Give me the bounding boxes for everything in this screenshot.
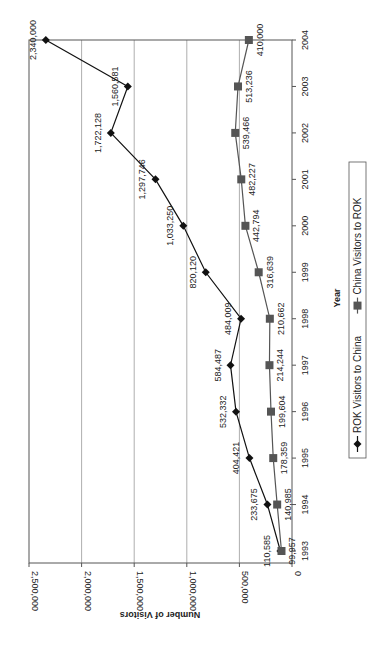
data-label: 539,466 (241, 117, 251, 150)
year-tick-label: 2002 (300, 123, 310, 143)
value-tick-label: 2,500,000 (30, 571, 40, 611)
data-label: 482,227 (247, 163, 257, 196)
legend-label: China Visitors to ROK (352, 197, 363, 294)
year-tick-label: 1999 (300, 262, 310, 282)
diamond-marker (227, 361, 235, 369)
year-axis-ticks: 1993199419951996199719981999200020012002… (292, 30, 310, 561)
data-label: 1,560,581 (110, 66, 120, 106)
value-tick-label: 0 (293, 571, 303, 576)
year-tick-label: 2001 (300, 169, 310, 189)
data-label: 513,236 (244, 70, 254, 103)
data-label: 442,794 (251, 210, 261, 243)
data-label: 1,297,746 (137, 159, 147, 199)
year-axis-title: Year (332, 288, 342, 308)
visitors-line-chart: 0500,0001,000,0001,500,0002,000,0002,500… (0, 0, 381, 665)
square-marker (265, 361, 273, 369)
data-label: 316,639 (265, 256, 275, 289)
diamond-marker (245, 454, 253, 462)
legend-label: ROK Visitors to China (352, 335, 363, 433)
legend: ROK Visitors to ChinaChina Visitors to R… (349, 162, 366, 458)
data-label: 199,604 (277, 395, 287, 428)
plot-area-border (29, 40, 292, 563)
square-marker (231, 129, 239, 137)
year-tick-label: 1997 (300, 355, 310, 375)
value-tick-label: 2,000,000 (83, 571, 93, 611)
year-tick-label: 2003 (300, 76, 310, 96)
data-series: 110,585233,675404,421532,332584,487484,0… (28, 20, 298, 567)
data-label: 410,000 (255, 24, 265, 57)
data-label: 233,675 (249, 488, 259, 521)
year-tick-label: 2000 (300, 216, 310, 236)
year-tick-label: 1998 (300, 309, 310, 329)
diamond-marker (42, 36, 50, 44)
diamond-marker (232, 408, 240, 416)
value-tick-label: 1,000,000 (188, 571, 198, 611)
data-label: 110,585 (262, 535, 272, 567)
value-axis-ticks: 0500,0001,000,0001,500,0002,000,0002,500… (29, 563, 303, 611)
data-label: 2,340,000 (28, 20, 38, 60)
data-label: 1,033,250 (165, 206, 175, 246)
data-label: 210,662 (276, 302, 286, 335)
value-tick-label: 1,500,000 (135, 571, 145, 611)
square-marker (237, 175, 245, 183)
square-marker (245, 36, 253, 44)
year-tick-label: 1995 (300, 448, 310, 468)
square-marker (266, 315, 274, 323)
data-label: 140,985 (283, 488, 293, 521)
square-marker (234, 82, 242, 90)
diamond-marker (179, 222, 187, 230)
diamond-marker (263, 501, 271, 509)
square-marker (269, 454, 277, 462)
year-tick-label: 1996 (300, 402, 310, 422)
data-label: 404,421 (231, 442, 241, 475)
data-label: 484,009 (223, 302, 233, 335)
data-label: 820,120 (188, 256, 198, 289)
square-marker (255, 268, 263, 276)
data-label: 99,957 (287, 537, 297, 565)
data-label: 214,244 (275, 349, 285, 382)
value-tick-label: 500,000 (240, 571, 250, 604)
square-marker (273, 501, 281, 509)
data-label: 178,359 (279, 442, 289, 475)
legend-square-icon (354, 302, 362, 310)
square-marker (277, 547, 285, 555)
data-label: 1,722,128 (93, 113, 103, 153)
series-china-to-rok: 99,957140,985178,359199,604214,244210,66… (231, 24, 297, 565)
gridlines (82, 40, 240, 563)
diamond-marker (124, 82, 132, 90)
square-marker (241, 222, 249, 230)
data-label: 532,332 (218, 395, 228, 428)
data-label: 584,487 (213, 349, 223, 382)
year-tick-label: 1994 (300, 495, 310, 515)
square-marker (267, 408, 275, 416)
year-tick-label: 1993 (300, 541, 310, 561)
value-axis-title: Number of Visitors (120, 610, 200, 620)
year-tick-label: 2004 (300, 30, 310, 50)
